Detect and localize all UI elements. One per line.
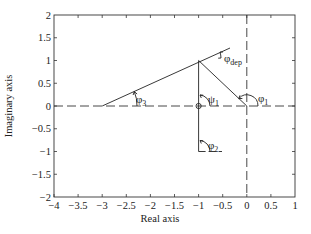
psi1-arrow [200,95,203,98]
x-tick-label: −1.5 [165,200,184,211]
x-tick-label: 0 [244,200,249,211]
x-tick-label: −3 [97,200,108,211]
y-tick-label: 2 [46,10,51,21]
y-tick-label: −0.5 [32,123,51,134]
y-tick-label: 0.5 [38,78,51,89]
x-tick-label: −0.5 [213,200,232,211]
y-axis-label: Imaginary axis [3,75,14,138]
x-tick-label: −3.5 [69,200,88,211]
y-tick-label: 1 [46,55,51,66]
x-tick-label: −2 [145,200,156,211]
phi3-label: φ3 [136,93,146,108]
y-tick-label: −1 [40,146,51,157]
x-tick-label: 0.5 [264,200,277,211]
y-tick-label: 1.5 [38,32,51,43]
root-locus-figure: −4 −3.5 −3 −2.5 −2 −1.5 −1 −0.5 0 0.5 1 … [0,0,311,234]
phidep-label: φdep [224,52,242,67]
phi1-label: φ1 [258,92,268,107]
x-axis-label: Real axis [141,213,180,224]
y-tick-labels: 2 1.5 1 0.5 0 −0.5 −1 −1.5 −2 [32,10,51,203]
y-tick-label: 0 [46,101,51,112]
phi1-arc [239,95,258,106]
phi2-arrow [200,141,203,144]
phidep-arc [220,52,221,58]
y-tick-label: −2 [40,192,51,203]
x-tick-labels: −4 −3.5 −3 −2.5 −2 −1.5 −1 −0.5 0 0.5 1 [48,200,297,211]
y-tick-label: −1.5 [32,169,51,180]
line-from-origin [199,61,247,107]
x-tick-label: −1 [193,200,204,211]
x-tick-label: −2.5 [117,200,136,211]
x-tick-label: 1 [292,200,297,211]
